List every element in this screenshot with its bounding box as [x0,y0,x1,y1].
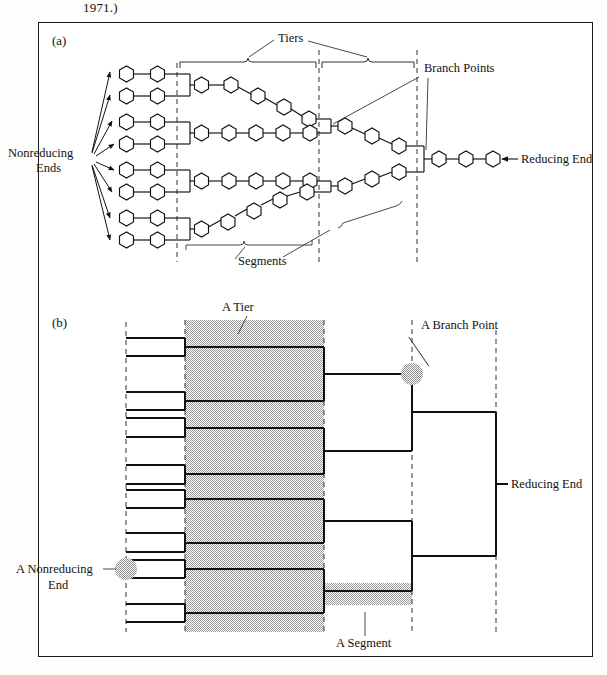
panel-a: (a) Tiers [8,31,593,268]
panel-a-segments-label: Segments [238,254,287,268]
panel-a-final-bracket [424,146,432,172]
panel-b-nonreducing-label-2: End [48,578,69,592]
panel-a-branch-brackets-1 [190,74,194,240]
panel-a-tiers-brace [180,58,414,68]
figure-canvas: (a) Tiers [0,0,607,675]
panel-b-label: (b) [52,315,67,330]
panel-a-tiers-leaders [249,40,367,57]
panel-a-label: (a) [52,33,66,48]
panel-a-nonreducing-label-2: Ends [36,161,61,175]
panel-a-residue-chains [120,66,191,248]
panel-b-branch-point-label: A Branch Point [421,318,499,332]
panel-a-reducing-tail [432,151,500,167]
panel-a-tier2-chains [338,118,424,194]
panel-a-branch-brackets-2 [331,119,338,192]
figure-root: 1971.) (a) [0,0,607,675]
panel-b: (b) [16,300,583,650]
panel-a-nonreducing-label-1: Nonreducing [8,146,74,160]
panel-a-tier-dividers [177,50,417,262]
panel-a-branch-points-label: Branch Points [424,61,495,75]
panel-b-tier-label: A Tier [222,300,254,314]
panel-a-nonreducing-arrows [92,72,114,240]
panel-b-segment-band [185,583,412,605]
panel-a-segments-braces [186,201,402,250]
panel-b-segment-level [324,374,412,591]
panel-a-reducing-end-label: Reducing End [521,152,593,166]
panel-b-nonreducing-label-1: A Nonreducing [16,562,93,576]
panel-b-root-level [412,412,496,556]
panel-a-tier1-chains [195,77,332,237]
nonreducing-end-marker-icon [115,558,137,580]
panel-b-segment-label: A Segment [336,636,392,650]
branch-point-marker-icon [401,363,423,385]
panel-b-leaf-level [126,338,185,622]
panel-a-tiers-label: Tiers [278,31,303,45]
panel-b-reducing-end-label: Reducing End [511,477,583,491]
